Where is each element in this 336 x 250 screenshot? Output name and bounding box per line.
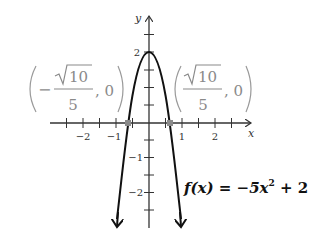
x-axis: −2 −1 1 2 x bbox=[50, 118, 255, 142]
x-tick-label-1: 1 bbox=[179, 131, 185, 142]
root-point-left bbox=[125, 120, 131, 126]
y-tick-label-2: 2 bbox=[134, 47, 140, 58]
y-tick-label-neg2: −2 bbox=[128, 187, 143, 198]
x-axis-label: x bbox=[248, 127, 255, 140]
root-label-right: 10 5 , 0 bbox=[175, 65, 251, 114]
x-tick-label-2: 2 bbox=[212, 131, 218, 142]
svg-text:, 0: , 0 bbox=[224, 82, 243, 100]
equation-label: f(x) = −5x2 + 2 bbox=[183, 178, 308, 197]
root-label-left: − 10 5 , 0 bbox=[30, 65, 123, 114]
curve-arrow-left bbox=[117, 212, 118, 227]
root-point-right bbox=[167, 120, 173, 126]
graph-plot: −2 −1 1 2 x 2 −1 −2 y − bbox=[0, 0, 336, 250]
x-tick-label-neg2: −2 bbox=[76, 131, 91, 142]
svg-text:5: 5 bbox=[68, 96, 78, 114]
svg-text:, 0: , 0 bbox=[95, 82, 114, 100]
svg-text:f(x) = −5x2 + 2: f(x) = −5x2 + 2 bbox=[183, 178, 308, 197]
curve-arrow-right bbox=[180, 212, 181, 227]
svg-text:5: 5 bbox=[198, 96, 208, 114]
y-tick-label-neg1: −1 bbox=[128, 152, 143, 163]
x-tick-label-neg1: −1 bbox=[107, 131, 122, 142]
y-axis-label: y bbox=[134, 12, 142, 25]
svg-text:10: 10 bbox=[69, 68, 88, 86]
svg-text:10: 10 bbox=[198, 68, 217, 86]
svg-text:−: − bbox=[38, 80, 51, 99]
